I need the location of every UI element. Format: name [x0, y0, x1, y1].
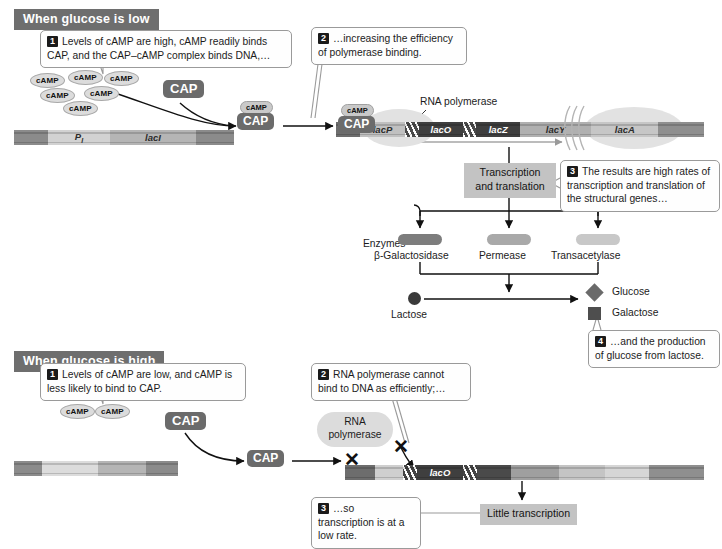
laco-label-high: lacO: [430, 467, 451, 478]
dna-segment: [42, 461, 98, 476]
callout-2-leader: [311, 64, 318, 118]
camp-molecule-5: cAMP: [84, 86, 119, 101]
callout-low-3: 3The results are high rates of transcrip…: [560, 160, 720, 212]
callout-number: 3: [567, 166, 578, 177]
process-line-1: Transcription: [471, 166, 549, 180]
regulatory-dna-strand-high: [14, 461, 178, 476]
callout-number: 2: [318, 33, 329, 44]
glucose-label: Glucose: [612, 286, 650, 297]
camp-molecule-2: cAMP: [68, 70, 103, 85]
lactose-label: Lactose: [391, 309, 427, 320]
callout-low-2: 2…increasing the efficiency of polymeras…: [311, 27, 467, 65]
dna-segment: [658, 122, 704, 137]
cap-protein-free-low: CAP: [163, 80, 204, 98]
blocked-x-icon-2: ✕: [393, 437, 409, 456]
dna-segment: [649, 465, 704, 480]
callout-number: 1: [47, 36, 58, 47]
callout-high-3: 3…so transcription is at a low rate.: [311, 497, 421, 549]
rna-polymerase-blob-high: RNA polymerase: [317, 412, 393, 447]
galactose-label: Galactose: [612, 307, 658, 318]
rna-polymerase-label-low: RNA polymerase: [420, 96, 497, 107]
glucose-diamond-icon: [585, 283, 603, 301]
callout-number: 3: [318, 503, 329, 514]
dna-hatch: [403, 465, 417, 480]
lacp-label: lacP: [373, 124, 393, 135]
galactose-square-icon: [588, 307, 601, 320]
cap-binding-arrow: [185, 433, 244, 461]
camp-molecule-1: cAMP: [30, 73, 65, 88]
enzyme-pill-transacetylase: [576, 234, 620, 245]
camp-molecule-6: cAMP: [63, 101, 98, 116]
dna-hatch: [405, 122, 419, 137]
callout-text: Levels of cAMP are high, cAMP readily bi…: [47, 36, 270, 61]
cap-protein-bound-low: CAP: [338, 116, 375, 133]
callout-text: …so transcription is at a low rate.: [318, 503, 404, 541]
dna-segment-laco: lacO: [419, 122, 463, 137]
enzyme-brace: [420, 262, 598, 274]
callout-number: 1: [47, 369, 58, 380]
polymerase-line-1: RNA: [327, 416, 383, 429]
operon-dna-strand-high: lacO: [345, 465, 704, 480]
laci-gene-label: lacI: [145, 132, 161, 143]
section-banner-glucose-low: When glucose is low: [14, 9, 159, 30]
dna-hatch: [463, 465, 477, 480]
dna-segment-laci: lacI: [110, 130, 196, 145]
dna-segment-promoter: PI: [48, 130, 110, 145]
regulatory-dna-strand-low: PI lacI: [14, 130, 234, 145]
promoter-label: PI: [75, 131, 83, 144]
enzyme-pill-permease: [487, 234, 531, 245]
dna-segment: [98, 461, 146, 476]
callout-high-1: 1Levels of cAMP are low, and cAMP is les…: [40, 363, 246, 401]
callout-low-1: 1Levels of cAMP are high, cAMP readily b…: [40, 30, 292, 68]
dna-segment: [14, 461, 42, 476]
dna-segment-lacz: lacZ: [476, 122, 520, 137]
callout-low-4: 4…and the production of glucose from lac…: [588, 330, 720, 368]
dna-segment-laco-high: lacO: [417, 465, 463, 480]
dna-segment: [14, 130, 48, 145]
enzyme-label-galactosidase: β-Galactosidase: [374, 250, 449, 261]
terminator-arcs: [562, 104, 602, 152]
dna-segment: [146, 461, 178, 476]
laco-label: lacO: [431, 124, 452, 135]
dna-hatch: [463, 122, 477, 137]
dna-segment: [559, 465, 605, 480]
callout-2-leader-b: [315, 64, 322, 118]
dna-segment: [605, 465, 649, 480]
enzyme-label-transacetylase: Transacetylase: [551, 250, 620, 261]
dna-segment: [477, 465, 511, 480]
cap-protein-free-high: CAP: [165, 412, 206, 430]
callout-text: RNA polymerase cannot bind to DNA as eff…: [318, 369, 445, 394]
cap-protein-complex-low: CAP: [237, 113, 274, 130]
enzyme-label-permease: Permease: [479, 250, 526, 261]
callout-text: The results are high rates of transcript…: [567, 166, 710, 204]
little-transcription-box: Little transcription: [480, 504, 577, 525]
laca-label: lacA: [615, 124, 635, 135]
operon-dna-strand-low: lacP lacO lacZ lacY lacA: [336, 122, 704, 137]
process-line-2: and translation: [471, 180, 549, 194]
enzyme-bus: [420, 211, 598, 216]
dna-segment: [345, 465, 375, 480]
callout-text: …and the production of glucose from lact…: [595, 336, 706, 361]
cap-to-complex-arrow: [180, 103, 234, 126]
lactose-molecule-icon: [408, 292, 421, 305]
camp-molecule-low-2: cAMP: [95, 404, 130, 419]
callout-text: Levels of cAMP are low, and cAMP is less…: [47, 369, 232, 394]
callout-text: …increasing the efficiency of polymerase…: [318, 33, 453, 58]
transcription-translation-box: Transcription and translation: [464, 163, 556, 198]
camp-molecule-low-1: cAMP: [60, 404, 95, 419]
callout-high-2: 2RNA polymerase cannot bind to DNA as ef…: [311, 363, 471, 401]
cap-protein-unbound-high: CAP: [247, 450, 284, 467]
callout-number: 4: [595, 336, 606, 347]
polymerase-line-2: polymerase: [327, 429, 383, 442]
dna-segment: [375, 465, 403, 480]
camp-molecule-4: cAMP: [40, 88, 75, 103]
enzyme-pill-galactosidase: [398, 234, 442, 245]
dna-segment: [196, 130, 234, 145]
callout-number: 2: [318, 369, 329, 380]
lacz-label: lacZ: [489, 124, 508, 135]
dna-segment: [511, 465, 559, 480]
camp-molecule-3: cAMP: [104, 71, 139, 86]
